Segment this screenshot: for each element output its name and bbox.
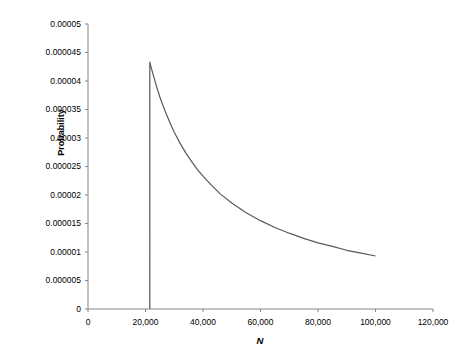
y-tick-label: 0.000025: [0, 162, 81, 171]
y-tick-label: 0.000045: [0, 48, 81, 57]
chart-container: 00.0000050.000010.0000150.000020.0000250…: [0, 0, 468, 361]
y-tick-label: 0.000015: [0, 219, 81, 228]
y-tick-label: 0.000005: [0, 276, 81, 285]
x-axis-title: N: [225, 336, 295, 346]
y-tick-label: 0.00004: [0, 77, 81, 86]
x-tick-label: 80,000: [288, 318, 348, 327]
y-axis-title: Probability: [57, 93, 66, 173]
x-tick-label: 40,000: [173, 318, 233, 327]
y-tick-label: 0.000035: [0, 105, 81, 114]
y-tick-label: 0.00005: [0, 20, 81, 29]
y-tick-label: 0.00002: [0, 191, 81, 200]
axes-group: [88, 24, 433, 309]
y-tick-label: 0.00001: [0, 248, 81, 257]
x-tick-label: 60,000: [231, 318, 291, 327]
y-tick-label: 0: [0, 305, 81, 314]
y-tick-label: 0.00003: [0, 134, 81, 143]
x-tick-label: 100,000: [346, 318, 406, 327]
data-series-line: [150, 62, 376, 309]
x-tick-label: 120,000: [403, 318, 463, 327]
x-tick-label: 0: [58, 318, 118, 327]
x-tick-label: 20,000: [116, 318, 176, 327]
